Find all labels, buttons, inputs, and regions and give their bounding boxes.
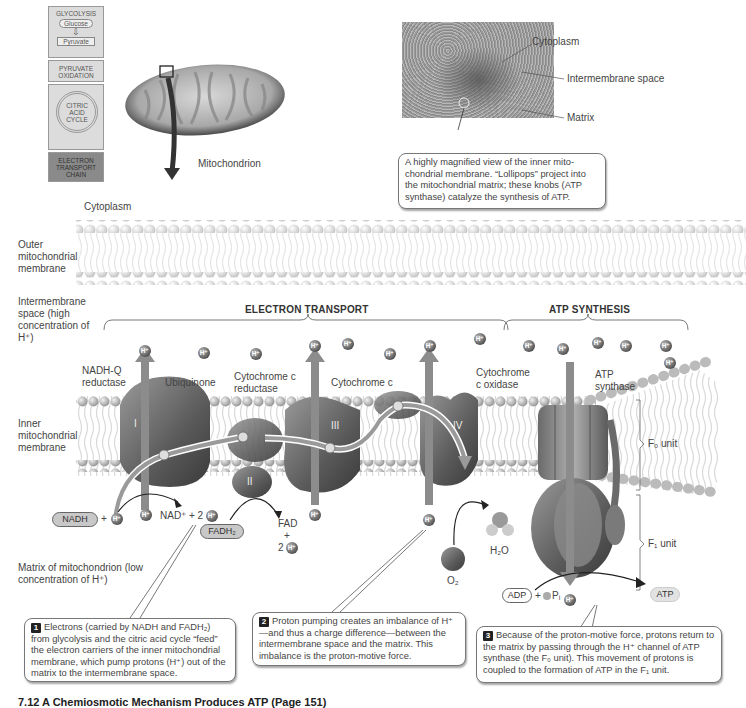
nadh-pill: NADH [52, 512, 98, 527]
h-ion: H⁺ [139, 345, 151, 357]
h-ion: H⁺ [620, 340, 632, 352]
step-2-badge: 2 [259, 617, 269, 627]
h-ion: H⁺ [140, 509, 152, 521]
h-ion: H⁺ [474, 333, 486, 345]
h-ion: H⁺ [309, 509, 321, 521]
complex-iv-numeral: IV [453, 420, 462, 432]
h-ion: H⁺ [384, 348, 396, 360]
callout-2-text: Proton pumping creates an imbalance of H… [259, 616, 453, 661]
f1-brace [636, 495, 644, 590]
h-ion: H⁺ [592, 337, 604, 349]
h2o-label: H₂O [490, 545, 509, 557]
step-3-badge: 3 [483, 631, 493, 641]
callout-3-text: Because of the proton-motive force, prot… [483, 630, 714, 675]
h-ion: H⁺ [111, 513, 123, 525]
h-ion: H⁺ [660, 340, 672, 352]
adp-plus: + [535, 590, 541, 602]
figure-caption: 7.12 A Chemiosmotic Mechanism Produces A… [18, 696, 326, 708]
adp-pill: ADP [502, 588, 532, 603]
h-ion: H⁺ [309, 340, 321, 352]
nad-plus-label: NAD⁺ + 2 [160, 510, 203, 522]
fad-label: FAD [278, 518, 297, 530]
cytochrome-c-reductase-label: Cytochrome c reductase [234, 371, 304, 395]
phosphate-icon [543, 592, 551, 600]
cytochrome-c-oxidase-label: Cytochrome c oxidase [476, 367, 536, 391]
plus-sign: + [101, 513, 107, 525]
fad-two: 2 [278, 542, 284, 554]
electron-transport-bracket [104, 314, 508, 330]
atp-synthesis-header: ATP SYNTHESIS [549, 304, 630, 315]
o2-molecule [441, 547, 465, 571]
ubiquinone-label: Ubiquinone [165, 377, 216, 389]
o2-label: O₂ [447, 575, 459, 587]
step-1-badge: 1 [31, 623, 41, 633]
callout-3: 3Because of the proton-motive force, pro… [476, 626, 722, 683]
h-ion: H⁺ [523, 340, 535, 352]
electron-transport-header: ELECTRON TRANSPORT [245, 304, 369, 315]
fad-plus: + [284, 530, 290, 542]
cytochrome-c-label: Cytochrome c [331, 377, 393, 389]
atp-product: ATP [650, 587, 680, 602]
callout-1-text: Electrons (carried by NADH and FADH₂) fr… [31, 622, 226, 678]
h-ion: H⁺ [198, 347, 210, 359]
h-ion: H⁺ [664, 357, 676, 369]
callout-2: 2Proton pumping creates an imbalance of … [252, 612, 466, 666]
h-ion: H⁺ [250, 348, 262, 360]
atp-synthase-label: ATP synthase [595, 369, 645, 393]
complex-i-numeral: I [134, 418, 137, 430]
complex-ii-numeral: II [247, 476, 253, 488]
h-ion: H⁺ [424, 340, 436, 352]
callout-1: 1Electrons (carried by NADH and FADH₂) f… [24, 618, 236, 682]
complex-iii-numeral: III [331, 420, 339, 432]
nadh-q-reductase-label: NADH-Q reductase [82, 365, 152, 389]
h-ion: H⁺ [342, 338, 354, 350]
h-ion: H⁺ [557, 343, 569, 355]
atp-synthesis-bracket [504, 314, 688, 330]
fadh2-pill: FADH₂ [200, 524, 244, 539]
outer-membrane [76, 220, 746, 285]
h-ion: H⁺ [286, 542, 298, 554]
h-ion: H⁺ [423, 514, 435, 526]
pi-label: Pᵢ [552, 590, 560, 602]
h-ion: H⁺ [564, 594, 576, 606]
f1-unit-label: F₁ unit [648, 538, 676, 550]
h-ion: H⁺ [206, 510, 218, 522]
f0-unit-label: F₀ unit [648, 438, 677, 450]
